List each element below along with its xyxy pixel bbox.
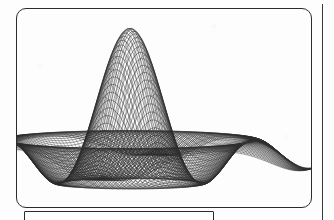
plot-canvas [16,8,312,208]
mesh-line [29,47,249,188]
mesh-line-group [16,28,312,189]
caption-frame [24,211,214,220]
document-page [0,0,334,220]
right-margin-rule [322,4,323,220]
wireframe-plot [16,8,312,208]
